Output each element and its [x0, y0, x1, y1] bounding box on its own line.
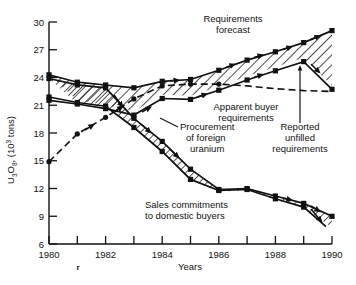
y-tick-label: 30 — [33, 17, 44, 28]
y-axis-title-tail2: tons) — [5, 116, 16, 140]
y-tick-label: 21 — [33, 100, 44, 111]
x-tick-label: 1988 — [265, 249, 286, 260]
x-tick-label: 1982 — [95, 249, 116, 260]
svg-text:U3O8, (103 tons): U3O8, (103 tons) — [5, 116, 18, 184]
x-tick-label: 1980 — [38, 249, 59, 260]
x-tick-label: 1990 — [321, 249, 342, 260]
annotation-line: to domestic buyers — [145, 210, 225, 221]
annotation-sales-commitments: Sales commitments to domestic buyers — [145, 199, 228, 221]
y-tick-label: 15 — [33, 155, 44, 166]
annotation-line: Procurement — [180, 121, 235, 132]
x-tick-label: 1984 — [152, 249, 173, 260]
uranium-requirements-chart: 6 9 12 15 18 21 24 27 30 1980 1982 1984 … — [0, 0, 356, 285]
y-axis-title-base2: O — [5, 166, 16, 173]
annotation-line: of foreign — [186, 132, 226, 143]
annotation-line: uranium — [190, 143, 224, 154]
annotation-line: unfilled — [285, 132, 315, 143]
y-tick-label: 6 — [39, 239, 44, 250]
x-axis-title: Years — [178, 261, 202, 272]
annotation-line: Apparent buyer — [214, 101, 279, 112]
annotation-line: Requirements — [203, 13, 262, 24]
chart-figure: 6 9 12 15 18 21 24 27 30 1980 1982 1984 … — [0, 0, 356, 285]
y-axis-title-tail: , (10 — [5, 143, 16, 162]
annotation-line: requirements — [272, 143, 328, 154]
stray-mark: r — [76, 263, 79, 272]
y-tick-label: 27 — [33, 44, 44, 55]
y-tick-label: 18 — [33, 128, 44, 139]
annotation-apparent-buyer-requirements: Apparent buyer requirements — [214, 101, 279, 123]
annotation-line: Sales commitments — [145, 199, 228, 210]
annotation-line: forecast — [216, 24, 250, 35]
y-tick-label: 24 — [33, 72, 44, 83]
y-tick-label: 9 — [39, 211, 44, 222]
y-axis-title: U3O8, (103 tons) — [5, 116, 18, 184]
x-tick-label: 1986 — [208, 249, 229, 260]
y-tick-label: 12 — [33, 183, 44, 194]
